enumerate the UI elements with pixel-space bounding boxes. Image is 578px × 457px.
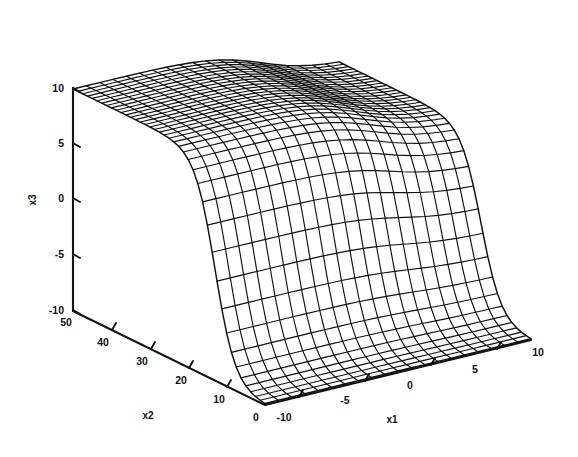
x2-tick-label-4: 10 bbox=[213, 393, 225, 405]
surface-plot-figure: 10 5 0 -5 -10 50 40 30 20 10 0 -10 -5 0 … bbox=[0, 0, 578, 457]
x1-tick-label-2: 0 bbox=[407, 379, 413, 391]
x1-tick-label-3: 5 bbox=[472, 363, 478, 375]
surface-mesh bbox=[73, 60, 531, 404]
x3-tick-label-1: 5 bbox=[58, 137, 64, 149]
x3-tick-label-3: -5 bbox=[55, 248, 64, 260]
x1-axis-title: x1 bbox=[386, 414, 398, 425]
x1-tick-label-1: -5 bbox=[340, 394, 349, 406]
x2-ticks bbox=[112, 323, 231, 387]
x2-axis-title: x2 bbox=[142, 410, 154, 421]
x1-tick-label-0: -10 bbox=[276, 411, 291, 423]
x3-ticks bbox=[73, 88, 80, 314]
x2-tick-label-3: 20 bbox=[175, 374, 187, 386]
x1-tick-label-4: 10 bbox=[532, 346, 544, 358]
x2-tick-label-2: 30 bbox=[136, 355, 148, 367]
x3-tick-label-2: 0 bbox=[58, 192, 64, 204]
x2-tick-label-5: 0 bbox=[253, 411, 259, 423]
plot-canvas: 10 5 0 -5 -10 50 40 30 20 10 0 -10 -5 0 … bbox=[0, 0, 578, 457]
x3-tick-label-0: 10 bbox=[52, 82, 64, 94]
x3-axis-title: x3 bbox=[27, 194, 38, 206]
x2-axis-line bbox=[73, 311, 265, 405]
x3-tick-label-4: -10 bbox=[49, 304, 64, 316]
x2-tick-label-0: 50 bbox=[60, 316, 72, 328]
x2-tick-label-1: 40 bbox=[97, 336, 109, 348]
